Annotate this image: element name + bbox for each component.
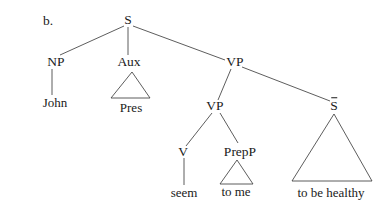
branch-s-vp — [133, 26, 225, 60]
triangle-sbar — [292, 114, 372, 181]
branch-s-np — [60, 26, 124, 55]
triangle-aux — [111, 72, 150, 98]
node-np: NP — [47, 55, 64, 69]
branch-vp-sbar — [242, 67, 330, 101]
leaf-pres: Pres — [120, 101, 142, 114]
node-s-bar: S — [330, 99, 338, 113]
leaf-to-me: to me — [221, 185, 250, 198]
leaf-to-be-healthy: to be healthy — [297, 186, 364, 199]
node-v: V — [178, 145, 188, 159]
leaf-john: John — [43, 96, 68, 109]
syntax-tree-diagram: b. S NP Aux VP John Pres VP S V PrepP se… — [0, 0, 384, 207]
node-aux: Aux — [117, 55, 140, 69]
node-vp-inner: VP — [206, 99, 223, 113]
node-s: S — [124, 13, 132, 27]
node-vp-top: VP — [226, 55, 243, 69]
node-prepp: PrepP — [224, 145, 256, 159]
branch-vp-vp — [218, 69, 231, 100]
branch-vp-v — [186, 113, 212, 146]
triangle-prepp — [220, 160, 253, 184]
example-label: b. — [43, 14, 53, 28]
leaf-seem: seem — [171, 186, 198, 199]
branch-vp-prepp — [220, 113, 238, 143]
s-bar-label: S — [330, 99, 338, 113]
